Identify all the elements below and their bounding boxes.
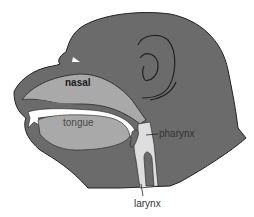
label-nasal: nasal (65, 78, 91, 88)
label-pharynx: pharynx (159, 129, 195, 139)
label-tongue: tongue (63, 118, 94, 128)
head-cross-section-diagram (0, 0, 254, 217)
label-larynx: larynx (134, 199, 161, 209)
